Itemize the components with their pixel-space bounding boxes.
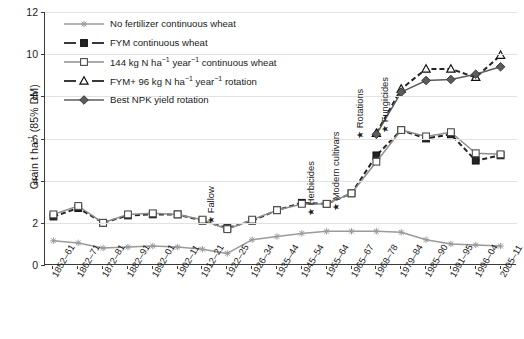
y-tick-label: 4 <box>14 176 38 186</box>
data-point-filled-diamond <box>422 76 431 85</box>
y-tick-mark <box>41 181 45 182</box>
data-point-star <box>249 237 255 243</box>
data-point-open-square <box>472 150 479 157</box>
legend-key-fym-plus-96n-rotation <box>62 74 106 88</box>
annotation-rotations: ★ Rotations <box>354 89 365 139</box>
data-point-star <box>348 228 354 234</box>
legend-key-n144-continuous <box>62 55 106 69</box>
data-point-open-square <box>125 211 132 218</box>
data-point-star <box>81 20 87 26</box>
data-point-open-square <box>274 207 281 214</box>
data-point-star <box>224 250 230 256</box>
legend-label-fym-continuous: FYM continuous wheat <box>106 38 208 48</box>
y-tick-mark <box>41 139 45 140</box>
data-point-open-square <box>75 203 82 210</box>
series-line-n144-continuous <box>53 130 500 229</box>
y-tick-label: 0 <box>14 260 38 270</box>
data-point-open-triangle <box>422 65 430 72</box>
data-point-filled-diamond <box>80 95 89 104</box>
legend-item-best-npk-rotation[interactable]: Best NPK yield rotation <box>62 90 276 109</box>
data-point-open-square <box>348 190 355 197</box>
legend-label-fym-plus-96n-rotation: FYM+ 96 kg N ha−1 year−1 rotation <box>106 74 257 87</box>
y-tick-mark <box>41 96 45 97</box>
annotation-modern-cultivars: ★ Modern cultivars <box>330 132 341 211</box>
y-tick-label: 6 <box>14 134 38 144</box>
data-point-filled-diamond <box>447 75 456 84</box>
data-point-star <box>373 228 379 234</box>
gridline <box>45 139 517 140</box>
x-axis-ticks: 1852–611862–711872–811882–911892–011902–… <box>44 266 516 339</box>
annotation-herbicides: ★ Herbicides <box>305 161 316 216</box>
data-point-open-triangle <box>80 76 88 83</box>
y-tick-label: 12 <box>14 7 38 17</box>
data-point-star <box>323 228 329 234</box>
annotation-fungicides: ★ Fungicides <box>379 77 390 133</box>
y-tick-label: 2 <box>14 218 38 228</box>
annotation-fallow: ★ Fallow <box>205 186 216 224</box>
data-point-star <box>274 233 280 239</box>
legend-label-best-npk-rotation: Best NPK yield rotation <box>106 95 209 105</box>
legend-label-n144-continuous: 144 kg N ha−1 year−1 continuous wheat <box>106 55 276 68</box>
gridline <box>45 223 517 224</box>
data-point-filled-square <box>81 39 88 46</box>
y-tick-label: 10 <box>14 49 38 59</box>
legend-label-no-fertilizer: No fertilizer continuous wheat <box>106 19 236 29</box>
legend-key-no-fertilizer <box>62 17 106 31</box>
series-line-fym-plus-96n-rotation <box>376 55 500 133</box>
rothamsted-wheat-yield-chart: Grain t ha-1 (85% DM) 024681012 1852–611… <box>0 0 524 339</box>
data-point-star <box>398 229 404 235</box>
legend-item-n144-continuous[interactable]: 144 kg N ha−1 year−1 continuous wheat <box>62 52 276 71</box>
series-line-best-npk-rotation <box>376 67 500 135</box>
legend-key-best-npk-rotation <box>62 93 106 107</box>
legend-item-fym-plus-96n-rotation[interactable]: FYM+ 96 kg N ha−1 year−1 rotation <box>62 71 276 90</box>
data-point-open-square <box>50 211 57 218</box>
gridline <box>45 181 517 182</box>
gridline <box>45 12 517 13</box>
y-tick-mark <box>41 12 45 13</box>
data-point-star <box>299 230 305 236</box>
legend-item-no-fertilizer[interactable]: No fertilizer continuous wheat <box>62 14 276 33</box>
legend: No fertilizer continuous wheatFYM contin… <box>62 14 276 109</box>
data-point-open-square <box>497 151 504 158</box>
legend-key-fym-continuous <box>62 36 106 50</box>
data-point-filled-diamond <box>496 63 505 72</box>
legend-item-fym-continuous[interactable]: FYM continuous wheat <box>62 33 276 52</box>
data-point-star <box>75 240 81 246</box>
y-tick-mark <box>41 223 45 224</box>
data-point-open-square <box>149 210 156 217</box>
data-point-open-square <box>224 226 231 233</box>
data-point-open-square <box>81 58 88 65</box>
data-point-open-square <box>398 127 405 134</box>
data-point-filled-square <box>472 157 479 164</box>
data-point-open-square <box>373 158 380 165</box>
data-point-star <box>50 238 56 244</box>
y-tick-label: 8 <box>14 91 38 101</box>
data-point-star <box>423 237 429 243</box>
data-point-open-square <box>174 211 181 218</box>
y-tick-mark <box>41 54 45 55</box>
data-point-open-square <box>447 129 454 136</box>
